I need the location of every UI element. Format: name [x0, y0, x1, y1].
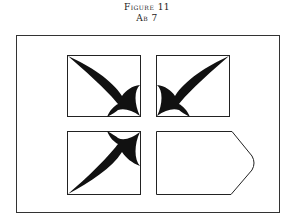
panel-bottom-left	[68, 131, 141, 195]
outer-frame	[17, 36, 280, 213]
panel-bottom-right	[157, 132, 255, 195]
figure-diagram	[0, 0, 294, 216]
leaf-shape-icon	[68, 131, 140, 194]
leaf-shape-icon	[157, 56, 229, 117]
panel-top-left	[68, 56, 141, 118]
leaf-shape-icon	[68, 56, 140, 117]
panel-top-right	[157, 56, 230, 118]
